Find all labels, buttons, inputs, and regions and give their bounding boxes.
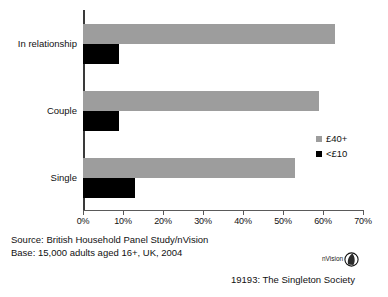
x-tick-label: 20% — [154, 216, 171, 227]
x-tick-label: 30% — [194, 216, 211, 227]
bar-low — [83, 178, 135, 198]
x-tick-label: 40% — [234, 216, 251, 227]
x-tick — [243, 211, 244, 215]
x-tick — [323, 211, 324, 215]
chart-footnote: Source: British Household Panel Study/nV… — [11, 233, 208, 259]
bar-high — [83, 91, 319, 111]
x-tick-label: 0% — [77, 216, 90, 227]
bar-chart-figure: 0%10%20%30%40%50%60%70% In relationshipC… — [0, 0, 388, 297]
chart-legend: £40+ <£10 — [316, 131, 347, 161]
bar-high — [83, 24, 335, 44]
nvision-logo-text: nVision — [322, 255, 343, 263]
legend-item-high[interactable]: £40+ — [316, 131, 347, 146]
legend-label-low: <£10 — [326, 146, 347, 161]
x-axis-line — [83, 210, 364, 211]
legend-item-low[interactable]: <£10 — [316, 146, 347, 161]
category-label: Couple — [47, 105, 77, 117]
x-tick — [83, 211, 84, 215]
x-tick — [363, 211, 364, 215]
x-tick-label: 60% — [314, 216, 331, 227]
x-tick-label: 70% — [354, 216, 371, 227]
source-line: Source: British Household Panel Study/nV… — [11, 233, 208, 246]
legend-swatch-icon-high — [316, 136, 322, 142]
bar-high — [83, 158, 295, 178]
category-label: Single — [51, 172, 77, 184]
category-label: In relationship — [18, 38, 77, 50]
x-tick — [283, 211, 284, 215]
x-tick — [203, 211, 204, 215]
nvision-logo: nVision — [322, 251, 359, 267]
base-line: Base: 15,000 adults aged 16+, UK, 2004 — [11, 246, 208, 259]
x-tick — [163, 211, 164, 215]
legend-swatch-icon-low — [316, 151, 322, 157]
legend-label-high: £40+ — [326, 131, 347, 146]
chart-caption: 19193: The Singleton Society — [231, 273, 355, 286]
bar-low — [83, 111, 119, 131]
x-tick-label: 50% — [274, 216, 291, 227]
nvision-eye-icon — [344, 252, 359, 267]
bar-low — [83, 44, 119, 64]
x-tick-label: 10% — [114, 216, 131, 227]
x-tick — [123, 211, 124, 215]
